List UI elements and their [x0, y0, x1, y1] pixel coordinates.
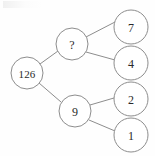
node-root-label: 126 — [18, 68, 35, 80]
node-two[interactable]: 2 — [114, 82, 148, 116]
node-root[interactable]: 126 — [11, 57, 43, 89]
node-two-label: 2 — [128, 93, 134, 107]
node-seven-label: 7 — [128, 21, 134, 35]
node-four-label: 4 — [128, 57, 134, 71]
node-seven[interactable]: 7 — [114, 10, 148, 44]
node-nine-label: 9 — [72, 105, 78, 119]
edge-question-to-four — [86, 52, 115, 60]
tree-svg-canvas: 126 ? 9 7 4 2 1 — [0, 0, 155, 156]
edge-nine-to-two — [90, 98, 114, 105]
node-question-label: ? — [69, 38, 75, 52]
node-four[interactable]: 4 — [114, 46, 148, 80]
edge-root-to-question — [40, 51, 58, 64]
edge-question-to-seven — [86, 22, 115, 37]
edge-root-to-nine — [39, 83, 61, 102]
node-one-label: 1 — [128, 129, 134, 143]
node-one[interactable]: 1 — [114, 118, 148, 152]
node-question[interactable]: ? — [56, 28, 88, 60]
tree-diagram: 126 ? 9 7 4 2 1 — [0, 0, 155, 156]
node-nine[interactable]: 9 — [59, 95, 91, 127]
edge-nine-to-one — [89, 120, 115, 131]
